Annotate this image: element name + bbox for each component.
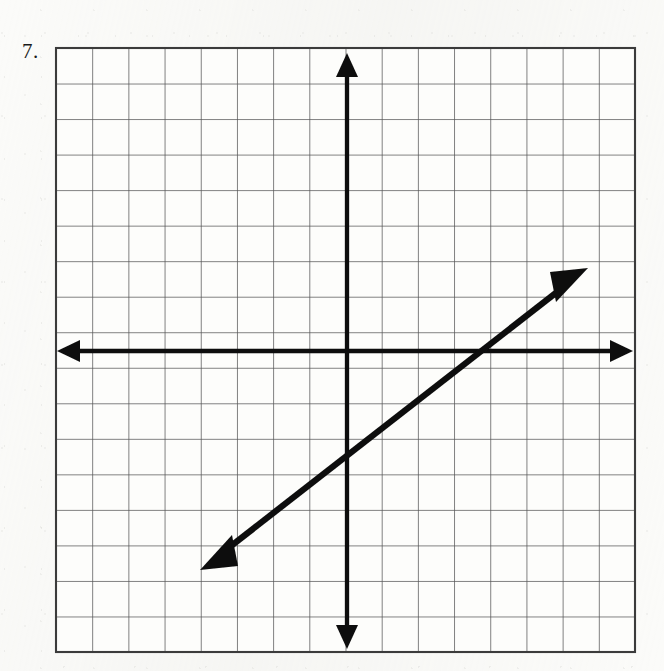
coordinate-plane-figure [0,0,664,671]
worksheet-page: 7. [0,0,664,671]
